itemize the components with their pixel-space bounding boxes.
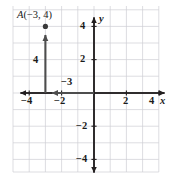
coordinate-plane-figure: A(−3, 4) y x −4 −2 2 4 4 2 −2 −4 4 −3 bbox=[0, 0, 172, 180]
y-tick-label-4: 4 bbox=[80, 21, 85, 32]
y-axis-label: y bbox=[99, 14, 104, 25]
x-tick-label-2: 2 bbox=[123, 96, 128, 107]
point-a-marker bbox=[43, 24, 48, 29]
x-tick-label-4: 4 bbox=[149, 96, 154, 107]
point-a-coords: (−3, 4) bbox=[23, 9, 52, 20]
y-tick-label-neg4: −4 bbox=[76, 154, 87, 165]
vertical-rise-label: 4 bbox=[33, 55, 38, 66]
grid-lines bbox=[13, 6, 159, 172]
x-tick-label-neg2: −2 bbox=[54, 96, 65, 107]
y-tick-label-neg2: −2 bbox=[76, 121, 87, 132]
x-tick-label-neg4: −4 bbox=[21, 96, 32, 107]
x-axis-label: x bbox=[160, 96, 165, 107]
horizontal-run-label: −3 bbox=[61, 77, 72, 88]
point-a-label: A(−3, 4) bbox=[17, 10, 52, 21]
y-tick-label-2: 2 bbox=[80, 54, 85, 65]
